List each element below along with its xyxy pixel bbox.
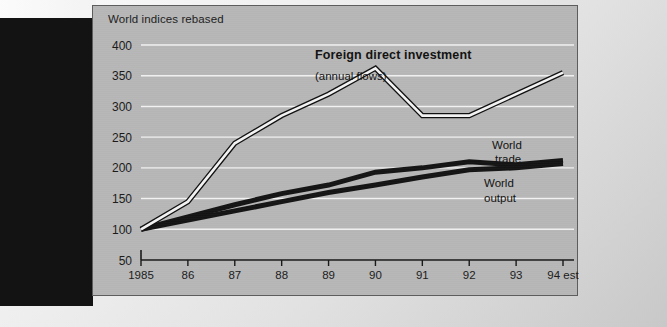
annotation-world-output-line2: output xyxy=(484,192,516,206)
x-axis-tick-label: 91 xyxy=(416,269,429,281)
y-axis-tick-label: 100 xyxy=(112,223,132,237)
y-axis-tick-labels: 50100150200250300350400 xyxy=(112,39,132,268)
x-axis-tick-labels: 1985868788899091929394 est xyxy=(128,269,579,281)
figure-root: World indices rebased 501001502002503003… xyxy=(0,0,667,327)
y-axis-tick-label: 250 xyxy=(112,131,132,145)
y-axis-tick-label: 400 xyxy=(112,39,132,53)
x-axis-tick-label: 93 xyxy=(510,269,523,281)
axis-group xyxy=(141,250,574,266)
x-axis-tick-label: 87 xyxy=(228,269,241,281)
x-axis-tick-label: 92 xyxy=(463,269,476,281)
x-axis-tick-label: 88 xyxy=(275,269,288,281)
left-black-bar xyxy=(0,18,93,306)
y-axis-tick-label: 200 xyxy=(112,161,132,175)
annotation-fdi-subtitle: (annual flows) xyxy=(315,70,387,84)
y-axis-tick-label: 150 xyxy=(112,192,132,206)
annotation-world-output-line1: World xyxy=(484,177,514,191)
annotation-fdi-title: Foreign direct investment xyxy=(315,48,472,63)
annotation-world-trade-line1: World xyxy=(492,139,522,153)
chart-panel: World indices rebased 501001502002503003… xyxy=(92,5,578,296)
annotation-world-trade-line2: trade xyxy=(495,153,521,167)
x-axis-tick-label: 1985 xyxy=(128,269,154,281)
x-axis-tick-label: 86 xyxy=(181,269,194,281)
page-top-strip xyxy=(0,0,96,19)
y-axis-tick-label: 300 xyxy=(112,100,132,114)
y-axis-tick-label: 50 xyxy=(119,254,133,268)
x-axis-tick-label: 90 xyxy=(369,269,382,281)
y-axis-tick-label: 350 xyxy=(112,69,132,83)
x-axis-tick-label: 89 xyxy=(322,269,335,281)
x-axis-tick-label: 94 est xyxy=(547,269,579,281)
